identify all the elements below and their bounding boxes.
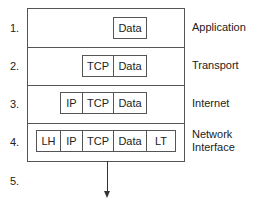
layer-number: 5. bbox=[10, 175, 19, 187]
tcp-header-cell: TCP bbox=[82, 130, 114, 152]
label-line: Network bbox=[192, 128, 235, 141]
down-arrow-icon bbox=[104, 191, 110, 198]
data-cell: Data bbox=[113, 17, 147, 39]
layer-label-network-interface: Network Interface bbox=[192, 128, 235, 154]
layer-number: 2. bbox=[10, 60, 19, 72]
layer-label-transport: Transport bbox=[192, 59, 239, 72]
tcp-header-cell: TCP bbox=[82, 55, 114, 77]
layer-label-application: Application bbox=[192, 21, 246, 34]
down-arrow-shaft bbox=[107, 161, 108, 192]
link-header-cell: LH bbox=[36, 130, 61, 152]
data-cell: Data bbox=[113, 55, 147, 77]
ip-header-cell: IP bbox=[60, 130, 83, 152]
tcp-header-cell: TCP bbox=[82, 92, 114, 114]
layer-number: 3. bbox=[10, 98, 19, 110]
label-line: Interface bbox=[192, 141, 235, 154]
data-cell: Data bbox=[113, 130, 147, 152]
layer-divider bbox=[27, 85, 184, 86]
layer-divider bbox=[27, 123, 184, 124]
layer-number: 4. bbox=[10, 136, 19, 148]
ip-header-cell: IP bbox=[60, 92, 83, 114]
link-trailer-cell: LT bbox=[146, 130, 176, 152]
layer-divider bbox=[27, 47, 184, 48]
data-cell: Data bbox=[113, 92, 147, 114]
layer-number: 1. bbox=[10, 22, 19, 34]
layer-label-internet: Internet bbox=[192, 97, 229, 110]
